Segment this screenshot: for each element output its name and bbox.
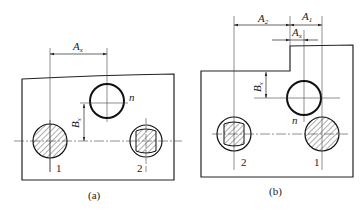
hole-label-b: n <box>292 114 298 126</box>
dim-label-a1: A1 <box>301 10 312 24</box>
dim-label-a2: A2 <box>257 12 269 26</box>
pin-1-round-b <box>305 117 339 151</box>
dim-label-ax-b: Ax <box>291 26 303 40</box>
caption-a: (a) <box>88 189 101 202</box>
workpiece-outline-b <box>201 45 353 177</box>
pin-2-label-b: 2 <box>241 156 247 168</box>
pin-1-label-a: 1 <box>56 162 62 174</box>
figure-b: A2 A1 Ax Bx n 2 1 (b) <box>201 10 353 198</box>
locating-pins-diagram: Ax n Bx 1 2 (a) A2 A1 <box>0 0 364 213</box>
figure-a: Ax n Bx 1 2 (a) <box>14 40 182 202</box>
pin-2-label-a: 2 <box>137 162 143 174</box>
dim-label-ax: Ax <box>72 40 84 54</box>
caption-b: (b) <box>269 185 282 198</box>
dim-label-bx-a: Bx <box>69 117 83 128</box>
pin-1-label-b: 1 <box>314 156 320 168</box>
dim-label-bx-b: Bx <box>251 81 265 92</box>
hole-label-a: n <box>129 91 135 103</box>
